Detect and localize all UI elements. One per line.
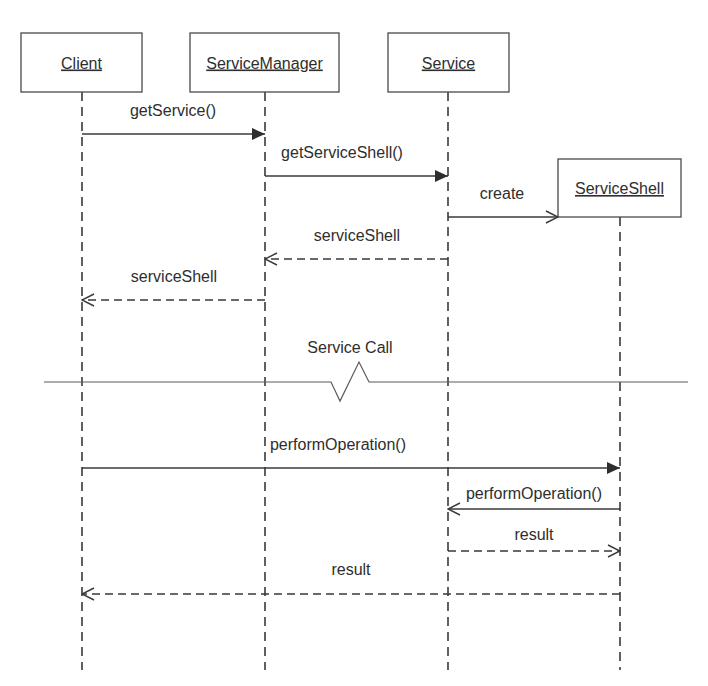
message-label: create [480,185,525,202]
message-label: serviceShell [314,227,400,244]
message-label: result [331,561,371,578]
message-label: getService() [130,102,216,119]
message-label: getServiceShell() [281,144,403,161]
object-service: Service [388,33,509,92]
message-label: performOperation() [270,436,406,453]
message-performoperation-1: performOperation() [82,436,620,468]
service-call-separator: Service Call [44,339,688,401]
object-client: Client [21,33,142,92]
object-label: Service [422,55,475,72]
message-performoperation-2: performOperation() [448,485,620,509]
object-label: ServiceShell [575,180,664,197]
object-serviceshell: ServiceShell [558,159,681,217]
lifelines [82,92,620,670]
message-getservice: getService() [82,102,265,134]
objects: ClientServiceManagerServiceServiceShell [21,33,681,217]
message-getserviceshell: getServiceShell() [265,144,448,176]
message-label: performOperation() [466,485,602,502]
object-servicemanager: ServiceManager [190,33,339,92]
separator-line [44,362,688,401]
separator-label: Service Call [307,339,392,356]
message-label: serviceShell [131,268,217,285]
message-serviceshell-return-2: serviceShell [82,268,265,300]
message-create: create [448,185,558,217]
message-label: result [514,526,554,543]
object-label: Client [61,55,102,72]
message-result-1: result [448,526,620,551]
sequence-diagram: ClientServiceManagerServiceServiceShell … [0,0,708,686]
message-result-2: result [82,561,620,594]
object-label: ServiceManager [206,55,323,72]
message-serviceshell-return-1: serviceShell [265,227,448,259]
